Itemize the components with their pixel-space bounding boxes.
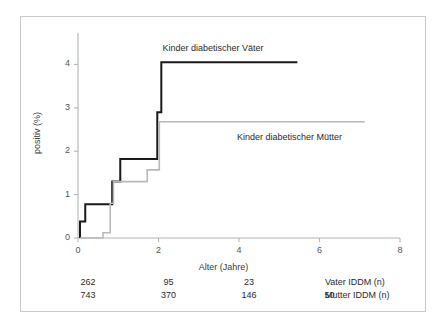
risk-table-cell: 743: [71, 290, 105, 300]
series-annotation: Kinder diabetischer Mütter: [237, 132, 342, 142]
series-annotation: Kinder diabetischer Väter: [163, 43, 264, 53]
risk-table-cell: 262: [71, 277, 105, 287]
y-tick-label: 1: [56, 189, 70, 199]
x-axis-label: Alter (Jahre): [0, 262, 447, 272]
y-tick-label: 3: [56, 102, 70, 112]
x-tick-label: 4: [229, 245, 249, 255]
risk-table-cell: 95: [152, 277, 186, 287]
series-paths-group: [80, 62, 365, 238]
chart-figure: positiv (%) Alter (Jahre) 01234 02468 Ki…: [0, 0, 447, 329]
risk-table-cell: 23: [232, 277, 266, 287]
risk-table-cell: 370: [152, 290, 186, 300]
x-tick-label: 0: [68, 245, 88, 255]
risk-table-row-label: Vater IDDM (n): [325, 277, 385, 287]
x-tick-label: 2: [149, 245, 169, 255]
table-row: 2629523Vater IDDM (n): [0, 277, 447, 290]
x-tick-marks: [78, 238, 400, 242]
risk-table-cell: 146: [232, 290, 266, 300]
y-tick-marks: [74, 64, 78, 238]
y-tick-label: 2: [56, 145, 70, 155]
risk-table-row-label: Mutter IDDM (n): [325, 290, 390, 300]
series-line: [80, 62, 297, 238]
y-tick-label: 4: [56, 58, 70, 68]
y-axis-label: positiv (%): [32, 88, 42, 178]
x-tick-label: 8: [390, 245, 410, 255]
x-tick-label: 6: [310, 245, 330, 255]
y-tick-label: 0: [56, 232, 70, 242]
table-row: 74337014650Mutter IDDM (n): [0, 290, 447, 303]
risk-number-table: 2629523Vater IDDM (n) 74337014650Mutter …: [0, 277, 447, 307]
